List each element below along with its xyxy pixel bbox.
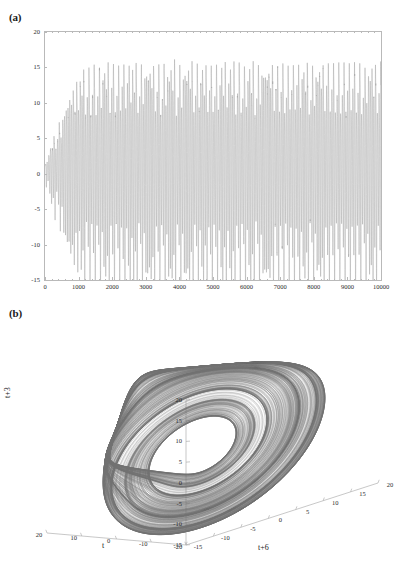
- panel-a-minor-tick: [294, 279, 295, 281]
- timeseries-trace: [45, 32, 381, 280]
- phase-ttick-neg20: -20: [168, 543, 188, 550]
- panel-a-minor-tick: [166, 279, 167, 281]
- panel-a-minor-tick: [374, 279, 375, 281]
- panel-a-minor-tick: [280, 279, 281, 281]
- panel-a-minor-tick: [267, 31, 268, 33]
- phase-t6tick-neg5: -5: [243, 525, 263, 532]
- panel-a-xtick-7000: 7000: [265, 283, 295, 290]
- panel-a-minor-tick: [52, 279, 53, 281]
- panel-a-minor-tick: [273, 31, 274, 33]
- phase-ttick-20: 20: [29, 531, 49, 538]
- panel-a-minor-tick: [179, 279, 180, 281]
- panel-a-minor-tick: [126, 31, 127, 33]
- panel-a-minor-tick: [65, 279, 66, 281]
- panel-a-minor-tick: [361, 31, 362, 33]
- panel-a-xtick-4000: 4000: [164, 283, 194, 290]
- panel-a-minor-tick: [247, 31, 248, 33]
- panel-a-minor-tick: [200, 31, 201, 33]
- panel-a-minor-tick: [280, 31, 281, 33]
- figure-container: (a) 20151050-5-10-15 0100020003000400050…: [0, 0, 396, 565]
- panel-a-minor-tick: [179, 31, 180, 33]
- axis-title-t: t: [102, 541, 104, 550]
- panel-a-minor-tick: [220, 31, 221, 33]
- panel-a-minor-tick: [300, 279, 301, 281]
- panel-a-minor-tick: [354, 279, 355, 281]
- phase-t6tick-neg15: -15: [188, 543, 208, 550]
- panel-a-minor-tick: [233, 31, 234, 33]
- panel-a-minor-tick: [112, 31, 113, 33]
- panel-a-minor-tick: [200, 279, 201, 281]
- panel-a-ytick-mark: [44, 174, 47, 175]
- phase-ytick-20: 20: [162, 396, 182, 403]
- panel-a-minor-tick: [132, 31, 133, 33]
- panel-a-minor-tick: [327, 31, 328, 33]
- phase-ytick-0: 0: [162, 479, 182, 486]
- panel-a-ytick-mark: [44, 67, 47, 68]
- panel-a-ytick-20: 20: [18, 28, 40, 35]
- panel-a-minor-tick: [79, 279, 80, 281]
- panel-a-plot-area: [45, 32, 381, 280]
- panel-a-minor-tick: [186, 279, 187, 281]
- panel-a-minor-tick: [240, 279, 241, 281]
- panel-a-minor-tick: [226, 279, 227, 281]
- panel-a-minor-tick: [361, 279, 362, 281]
- panel-a-ytick-mark: [44, 103, 47, 104]
- panel-a-minor-tick: [314, 31, 315, 33]
- panel-a-minor-tick: [146, 31, 147, 33]
- panel-a-minor-tick: [213, 279, 214, 281]
- panel-a-ytick-0: 0: [18, 170, 40, 177]
- panel-a-minor-tick: [314, 279, 315, 281]
- phase-t6tick-10: 10: [325, 499, 345, 506]
- phase-ytick-5: 5: [162, 458, 182, 465]
- panel-a-minor-tick: [287, 279, 288, 281]
- panel-a-ytick-15: 15: [18, 63, 40, 70]
- phase-t6tick-15: 15: [353, 490, 373, 497]
- panel-a-minor-tick: [341, 279, 342, 281]
- panel-a-xtick-6000: 6000: [232, 283, 262, 290]
- panel-a-minor-tick: [321, 31, 322, 33]
- panel-a-minor-tick: [247, 279, 248, 281]
- panel-a-ytick-10: 10: [18, 99, 40, 106]
- phase-ttick-neg10: -10: [133, 540, 153, 547]
- panel-a-minor-tick: [294, 31, 295, 33]
- panel-a-minor-tick: [92, 31, 93, 33]
- panel-a-ytick-mark: [44, 209, 47, 210]
- panel-a-minor-tick: [119, 279, 120, 281]
- panel-a-minor-tick: [52, 31, 53, 33]
- panel-a-minor-tick: [260, 31, 261, 33]
- panel-a-minor-tick: [112, 279, 113, 281]
- panel-a-minor-tick: [260, 279, 261, 281]
- panel-a-timeseries: (a) 20151050-5-10-15 0100020003000400050…: [0, 0, 396, 300]
- attractor-trajectory: [103, 362, 325, 535]
- panel-a-minor-tick: [166, 31, 167, 33]
- axis-title-t-plus-6: t+6: [258, 543, 269, 552]
- panel-a-minor-tick: [58, 279, 59, 281]
- panel-a-minor-tick: [173, 279, 174, 281]
- panel-a-minor-tick: [206, 279, 207, 281]
- panel-a-ytick-mark: [44, 245, 47, 246]
- panel-a-minor-tick: [193, 279, 194, 281]
- panel-a-minor-tick: [206, 31, 207, 33]
- panel-a-minor-tick: [159, 279, 160, 281]
- panel-a-minor-tick: [307, 31, 308, 33]
- panel-a-minor-tick: [233, 279, 234, 281]
- panel-a-xtick-0: 0: [30, 283, 60, 290]
- panel-a-minor-tick: [226, 31, 227, 33]
- panel-a-minor-tick: [72, 279, 73, 281]
- panel-a-minor-tick: [220, 279, 221, 281]
- panel-a-minor-tick: [341, 31, 342, 33]
- panel-a-ytick-mark: [44, 138, 47, 139]
- panel-a-minor-tick: [72, 31, 73, 33]
- phase-ytick-15: 15: [162, 417, 182, 424]
- panel-a-xtick-5000: 5000: [198, 283, 228, 290]
- panel-a-minor-tick: [368, 31, 369, 33]
- panel-a-minor-tick: [58, 31, 59, 33]
- panel-a-minor-tick: [334, 31, 335, 33]
- panel-a-minor-tick: [287, 31, 288, 33]
- panel-a-minor-tick: [267, 279, 268, 281]
- panel-a-minor-tick: [146, 279, 147, 281]
- phase-t6tick-5: 5: [298, 508, 318, 515]
- panel-b-phase-space: 20151050-5-10-1520100-10-20-15-10-505101…: [0, 300, 396, 565]
- panel-a-minor-tick: [368, 279, 369, 281]
- panel-a-minor-tick: [153, 31, 154, 33]
